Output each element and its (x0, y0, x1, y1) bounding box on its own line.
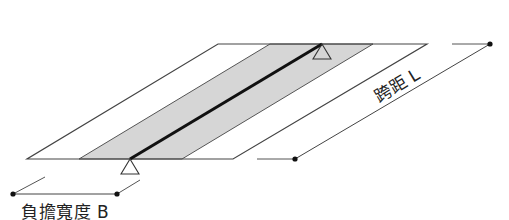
width-dot-left (10, 191, 15, 196)
width-extension-left (13, 177, 45, 194)
support-triangle-near (121, 159, 139, 174)
width-extension-right (117, 180, 140, 194)
beam-centerline (130, 44, 322, 159)
tributary-width-label: 負擔寬度 B (21, 198, 109, 220)
span-dot-top (487, 41, 492, 46)
width-dot-right (114, 191, 119, 196)
slab-diagram (0, 0, 509, 220)
span-dot-bottom (292, 156, 297, 161)
